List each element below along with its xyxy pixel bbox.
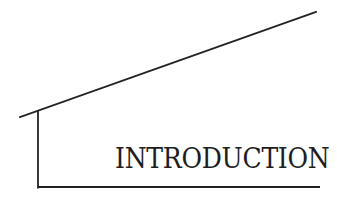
section-title-graphic: INTRODUCTION bbox=[0, 0, 337, 202]
diagonal-roof-line bbox=[20, 12, 316, 117]
section-heading: INTRODUCTION bbox=[115, 142, 307, 176]
